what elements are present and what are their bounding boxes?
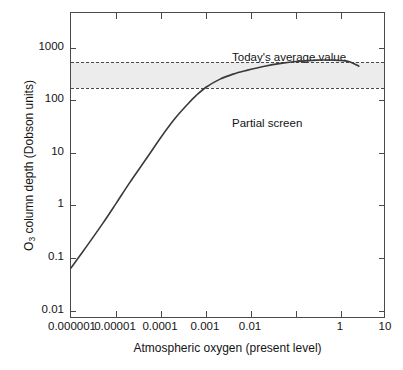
y-axis-title-text: O	[22, 242, 36, 251]
y-axis-title: O3 column depth (Dobson units)	[22, 51, 37, 281]
y-tick-label-100: 100	[45, 93, 64, 105]
x-axis-title: Atmospheric oxygen (present level)	[70, 341, 385, 355]
x-axis-tick-labels: 0.000001 0.00001 0.0001 0.001 0.01 1 10	[0, 320, 403, 340]
ozone-curve	[71, 13, 386, 319]
x-tick-label-1: 1	[337, 320, 343, 333]
x-tick-label-0.000001: 0.000001	[48, 320, 96, 333]
x-tick-label-0.001: 0.001	[191, 320, 220, 333]
x-tick-label-0.00001: 0.00001	[94, 320, 136, 333]
y-tick-label-0.01: 0.01	[42, 304, 64, 316]
plot-area: Today's average value Partial screen	[70, 12, 385, 318]
x-tick-label-0.01: 0.01	[239, 320, 261, 333]
y-tick-label-10: 10	[51, 146, 64, 158]
x-tick-label-0.0001: 0.0001	[142, 320, 177, 333]
y-tick-label-1: 1	[58, 198, 64, 210]
y-tick-label-1000: 1000	[38, 41, 64, 53]
y-axis-title-subscript: 3	[27, 237, 37, 242]
y-axis-title-rest: column depth (Dobson units)	[22, 80, 36, 237]
x-tick-label-10: 10	[379, 320, 392, 333]
y-tick-label-0.1: 0.1	[48, 251, 64, 263]
ozone-column-depth-chart: 1000 100 10 1 0.1 0.01 O3 column depth (…	[0, 0, 403, 370]
